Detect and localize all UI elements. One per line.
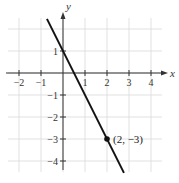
x-tick-label: −1 (36, 77, 47, 88)
coordinate-plane: −2−112341−1−2−3−4 (2, −3) x y (0, 0, 179, 183)
y-tick-label: −3 (47, 134, 58, 145)
y-tick-label: −1 (47, 90, 58, 101)
y-tick-label: −2 (47, 112, 58, 123)
x-tick-label: 3 (127, 77, 132, 88)
x-tick-label: −2 (14, 77, 25, 88)
x-axis-label: x (169, 67, 175, 79)
axes (6, 12, 168, 170)
line-series (47, 19, 124, 173)
point-label: (2, −3) (113, 133, 143, 146)
x-tick-label: 2 (105, 77, 110, 88)
x-tick-label: 4 (149, 77, 154, 88)
line-graph (47, 19, 124, 173)
y-axis-arrow-icon (61, 12, 66, 19)
point-marker (104, 136, 110, 142)
y-tick-label: −4 (47, 156, 58, 167)
y-axis-label: y (65, 0, 71, 12)
axis-ticks: −2−112341−1−2−3−4 (14, 46, 154, 167)
y-tick-label: 1 (53, 46, 58, 57)
x-tick-label: 1 (83, 77, 88, 88)
x-axis-arrow-icon (161, 71, 168, 76)
